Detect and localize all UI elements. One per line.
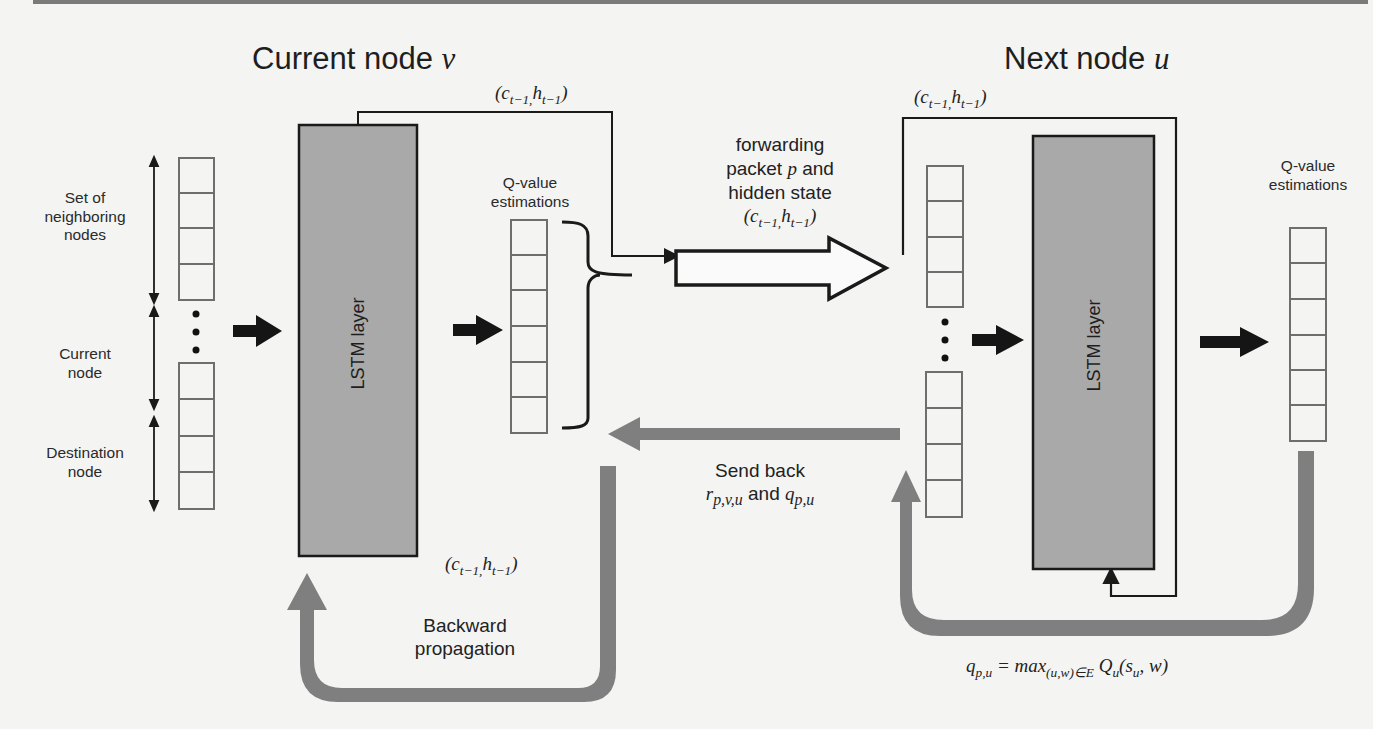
q-value-label-left: Q-valueestimations [480, 174, 580, 211]
label-neighboring-nodes: Set of neighboring nodes [30, 189, 140, 245]
hidden-state-label-top-left: (ct−1,ht−1) [495, 82, 568, 108]
send-back-label: Send back rp,v,u and qp,u [680, 460, 840, 510]
title-current-node: Current node v [252, 40, 455, 77]
diagram-canvas [0, 0, 1373, 729]
q-value-label-right: Q-valueestimations [1258, 157, 1358, 194]
label-destination-node: Destination node [30, 444, 140, 481]
range-arrows [150, 157, 158, 510]
send-back-arrow [608, 417, 900, 451]
q-update-equation: qp,u = max(u,w)∈E Qu(su, w) [966, 655, 1168, 681]
q-vector-left [511, 220, 547, 433]
ellipsis-dots-left [193, 311, 200, 354]
arrow-lstm-to-q-right [1200, 327, 1269, 357]
q-vector-right [1290, 228, 1326, 441]
ellipsis-dots-right [942, 319, 949, 362]
hidden-state-label-bottom: (ct−1,ht−1) [445, 553, 518, 579]
label-current-node: Current node [40, 345, 130, 382]
backprop-label: Backwardpropagation [390, 615, 540, 661]
lstm-label-right: LSTM layer [1084, 296, 1105, 396]
arrow-lstm-to-q-left [453, 315, 503, 345]
arrow-input-to-lstm-left [233, 315, 282, 347]
forwarding-label: forwarding packet p and hidden state (ct… [690, 133, 870, 232]
hidden-state-label-top-right: (ct−1,ht−1) [914, 86, 987, 112]
lstm-label-left: LSTM layer [348, 294, 369, 394]
curly-brace [562, 222, 632, 428]
title-next-node: Next node u [1004, 40, 1169, 77]
arrow-input-to-lstm-right [972, 325, 1024, 355]
forwarding-arrow [676, 238, 886, 299]
